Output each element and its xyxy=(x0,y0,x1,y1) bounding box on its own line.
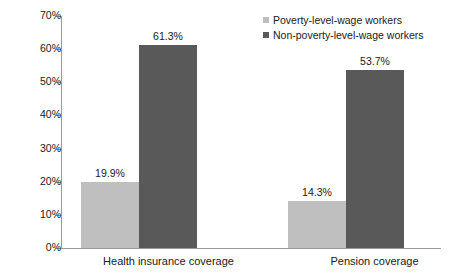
x-axis-category-label: Health insurance coverage xyxy=(103,255,234,267)
bar[interactable]: 19.9% xyxy=(81,182,139,248)
y-axis-tick-label: 10% xyxy=(11,208,61,220)
y-axis-tick-label: 60% xyxy=(11,42,61,54)
y-axis-tick-label: 70% xyxy=(11,9,61,21)
y-axis-tick-label: 0% xyxy=(11,241,61,253)
bar-value-label: 14.3% xyxy=(302,186,332,198)
legend-item-1[interactable]: Non-poverty-level-wage workers xyxy=(263,28,448,42)
y-axis-tick-label: 30% xyxy=(11,142,61,154)
y-axis-tick-label: 20% xyxy=(11,175,61,187)
y-axis-tick-label: 50% xyxy=(11,75,61,87)
bar[interactable]: 14.3% xyxy=(288,201,346,248)
y-axis-tick-label: 40% xyxy=(11,108,61,120)
bar[interactable]: 53.7% xyxy=(346,70,404,248)
legend: Poverty-level-wage workers Non-poverty-l… xyxy=(263,13,448,43)
bar-chart: 0%10%20%30%40%50%60%70% 19.9%61.3%14.3%5… xyxy=(0,0,450,279)
x-axis-line xyxy=(61,248,441,249)
legend-label-0: Poverty-level-wage workers xyxy=(273,14,402,26)
legend-swatch-icon-1 xyxy=(263,32,269,38)
bar-value-label: 61.3% xyxy=(153,30,183,42)
legend-swatch-icon-0 xyxy=(263,17,269,23)
bar[interactable]: 61.3% xyxy=(139,45,197,248)
x-axis-category-label: Pension coverage xyxy=(330,255,418,267)
bar-value-label: 53.7% xyxy=(360,55,390,67)
legend-item-0[interactable]: Poverty-level-wage workers xyxy=(263,13,448,27)
y-axis-line xyxy=(61,16,62,249)
bar-value-label: 19.9% xyxy=(95,167,125,179)
legend-label-1: Non-poverty-level-wage workers xyxy=(273,29,424,41)
